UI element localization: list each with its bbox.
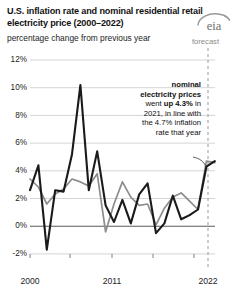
x-axis-label-2022: 2022 xyxy=(188,276,228,286)
chart-annotation: nominal electricity prices went up 4.3% … xyxy=(103,80,201,138)
annotation-line-4: 2021, in line with xyxy=(103,109,201,119)
y-axis-label-8: 8% xyxy=(3,111,27,120)
y-axis-label-4: 4% xyxy=(3,166,27,175)
y-axis-label-10: 10% xyxy=(3,83,27,92)
annotation-line-1: nominal xyxy=(103,80,201,90)
y-axis-label-neg2: -2% xyxy=(3,249,27,258)
y-axis-label-2: 2% xyxy=(3,194,27,203)
y-axis-label-12: 12% xyxy=(3,55,27,64)
annotation-line-2: electricity prices xyxy=(103,90,201,100)
x-axis-label-2000: 2000 xyxy=(10,276,50,286)
series-inflation-rate xyxy=(30,161,215,232)
chart-page: U.S. inflation rate and nominal resident… xyxy=(0,0,238,300)
annotation-line-6: rate that year xyxy=(103,128,201,138)
chart-plot-area xyxy=(0,0,238,300)
y-axis-label-0: 0% xyxy=(3,221,27,230)
annotation-leader-line xyxy=(193,157,206,166)
annotation-line-5: the 4.7% inflation xyxy=(103,118,201,128)
x-axis-label-2011: 2011 xyxy=(92,276,132,286)
x-axis-ticks xyxy=(30,254,194,258)
annotation-line-3: went up 4.3% in xyxy=(103,99,201,109)
y-axis-label-6: 6% xyxy=(3,138,27,147)
